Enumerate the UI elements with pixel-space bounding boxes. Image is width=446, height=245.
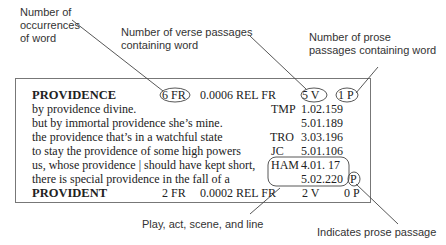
callout-lines: [0, 0, 446, 245]
